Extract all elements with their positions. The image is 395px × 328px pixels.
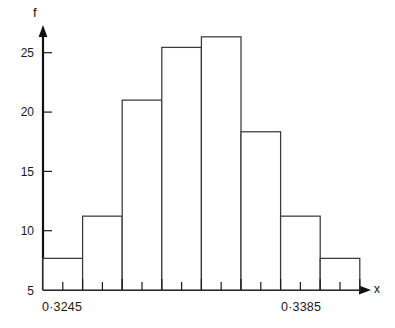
x-axis-arrowhead	[359, 286, 371, 295]
bar-6	[241, 132, 281, 290]
y-tick-layer	[43, 53, 52, 290]
bar-2	[83, 216, 123, 290]
chart-canvas	[0, 0, 395, 328]
histogram-chart: f x 25 20 15 10 5 0·3245 0·3385	[0, 0, 395, 328]
bar-4	[162, 47, 202, 290]
bar-5	[201, 37, 241, 290]
bar-7	[281, 216, 321, 290]
bars-layer	[43, 37, 360, 290]
y-axis-arrowhead	[39, 25, 48, 37]
bar-3	[122, 100, 162, 290]
